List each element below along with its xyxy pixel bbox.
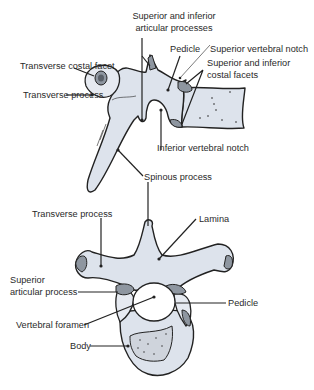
label-pedicle-lateral: Pedicle: [170, 44, 200, 54]
lateral-view: Superior and inferior articular processe…: [20, 11, 308, 192]
superior-view-right-tp-facet: [224, 255, 233, 269]
label-body: Body: [70, 341, 91, 351]
label-articular-processes-1: Superior and inferior: [132, 11, 215, 21]
label-superior-vertebral-notch: Superior vertebral notch: [210, 44, 308, 54]
label-transverse-costal-facet: Transverse costal facet: [20, 61, 115, 71]
vertebra-diagram: Superior and inferior articular processe…: [0, 0, 314, 390]
vertebral-foramen-shape: [133, 283, 175, 321]
superior-arch: [76, 220, 234, 292]
label-costal-facets-1: Superior and inferior: [207, 58, 290, 68]
facet-center: [98, 75, 104, 82]
label-superior-articular-2: articular process: [10, 287, 78, 297]
label-vertebral-foramen: Vertebral foramen: [16, 320, 89, 330]
label-pedicle-superior: Pedicle: [228, 298, 258, 308]
label-articular-processes-2: articular processes: [135, 23, 213, 33]
superior-view: Transverse process Lamina Superior artic…: [10, 182, 258, 375]
label-transverse-process-superior: Transverse process: [32, 209, 113, 219]
label-costal-facets-2: costal facets: [207, 70, 258, 80]
superior-costal-facet: [178, 81, 192, 92]
superior-articular-facet-left: [116, 284, 134, 295]
label-inferior-vertebral-notch: Inferior vertebral notch: [157, 143, 249, 153]
label-lamina: Lamina: [199, 214, 230, 224]
label-transverse-process-lateral: Transverse process: [23, 90, 104, 100]
diagram-canvas: Superior and inferior articular processe…: [0, 0, 314, 390]
label-spinous-process: Spinous process: [144, 172, 212, 182]
label-superior-articular-1: Superior: [10, 275, 45, 285]
leader-spinous-process: [118, 150, 143, 176]
superior-articular-facet: [148, 55, 156, 70]
